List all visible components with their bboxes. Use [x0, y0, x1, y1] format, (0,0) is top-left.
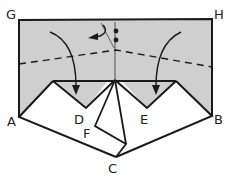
label-G: G: [6, 7, 16, 22]
dot-icon: [114, 29, 119, 34]
label-D: D: [74, 112, 84, 127]
diagram-svg: G H A B D E F C: [0, 0, 229, 178]
label-C: C: [108, 161, 117, 176]
label-B: B: [214, 112, 223, 127]
label-F: F: [83, 126, 90, 141]
shaded-flap: [19, 19, 212, 117]
origami-diagram: G H A B D E F C: [0, 0, 229, 178]
label-A: A: [7, 114, 16, 129]
label-H: H: [214, 7, 224, 22]
dot-icon: [114, 38, 119, 43]
label-E: E: [140, 112, 148, 127]
center-crease: [115, 80, 126, 144]
